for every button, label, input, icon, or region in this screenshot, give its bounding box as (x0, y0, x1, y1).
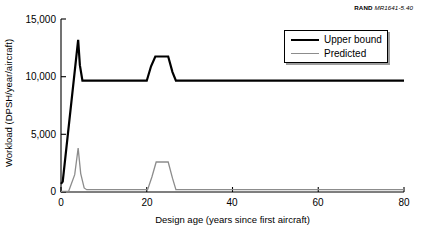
figure-container: RAND MR1641-5.40 Workload (DPSH/year/air… (0, 0, 421, 235)
legend-swatch-icon (291, 39, 319, 41)
series-line-predicted (61, 148, 404, 191)
legend-label: Upper bound (324, 33, 382, 47)
legend-swatch-icon (291, 53, 319, 54)
legend-label: Predicted (324, 47, 366, 61)
chart-legend[interactable]: Upper bound Predicted (284, 30, 388, 63)
legend-item-upper-bound[interactable]: Upper bound (285, 33, 389, 47)
legend-item-predicted[interactable]: Predicted (285, 47, 389, 61)
